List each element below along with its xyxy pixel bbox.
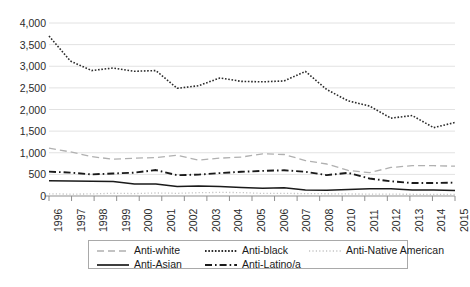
x-axis-tick-label: 2004 (233, 209, 244, 232)
legend-label: Anti-Native American (346, 245, 444, 256)
chart-legend: Anti-white Anti-black Anti-Native Americ… (88, 240, 408, 269)
legend-swatch-anti-white (97, 246, 129, 256)
legend-swatch-anti-native-american (309, 246, 341, 256)
x-axis-tick-label: 2002 (188, 209, 199, 232)
x-axis-tick-label: 2008 (324, 209, 335, 232)
legend-label: Anti-Asian (134, 259, 182, 270)
x-axis-tick-label: 1999 (121, 209, 132, 232)
legend-swatch-anti-black (205, 246, 237, 256)
line-chart: 05001,0001,5002,0002,5003,0003,5004,000 … (0, 0, 470, 287)
x-axis-tick-label: 2007 (301, 209, 312, 232)
x-axis-tick-label: 1998 (98, 209, 109, 232)
legend-item-anti-white[interactable]: Anti-white (89, 245, 197, 256)
x-axis-tick-label: 2011 (369, 209, 380, 232)
legend-row: Anti-Asian Anti-Latino/a (89, 258, 407, 271)
legend-label: Anti-black (242, 245, 288, 256)
x-axis-tick-label: 2010 (346, 209, 357, 232)
x-axis-tick-label: 2013 (414, 209, 425, 232)
legend-item-anti-latino[interactable]: Anti-Latino/a (197, 259, 301, 270)
legend-row: Anti-white Anti-black Anti-Native Americ… (89, 244, 407, 257)
legend-swatch-anti-latino (205, 260, 237, 270)
x-axis-tick-label: 1997 (76, 209, 87, 232)
legend-item-anti-native-american[interactable]: Anti-Native American (301, 245, 409, 256)
legend-item-anti-asian[interactable]: Anti-Asian (89, 259, 197, 270)
legend-label: Anti-white (134, 245, 180, 256)
x-axis-tick-label: 1996 (53, 209, 64, 232)
x-axis-tick-label: 2000 (143, 209, 154, 232)
x-axis-tick-label: 2012 (391, 209, 402, 232)
x-axis-tick-label: 2005 (256, 209, 267, 232)
x-axis-tick-label: 2014 (436, 209, 447, 232)
legend-swatch-anti-asian (97, 260, 129, 270)
x-axis-tick-label: 2006 (279, 209, 290, 232)
legend-item-anti-black[interactable]: Anti-black (197, 245, 301, 256)
x-axis-tick-label: 2001 (166, 209, 177, 232)
x-axis-tick-label: 2003 (211, 209, 222, 232)
legend-label: Anti-Latino/a (242, 259, 301, 270)
x-axis-tick-label: 2015 (459, 209, 470, 232)
